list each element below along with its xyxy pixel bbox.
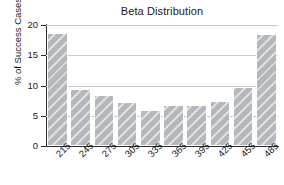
chart-container: Beta Distribution % of Success Cases 051… bbox=[0, 0, 284, 185]
bar bbox=[256, 34, 277, 146]
bar bbox=[70, 89, 91, 146]
y-tick-mark-0 bbox=[41, 146, 46, 147]
y-tick-mark-10 bbox=[41, 86, 46, 87]
bar bbox=[47, 33, 68, 146]
y-tick-label-20: 20 bbox=[12, 20, 38, 30]
bar bbox=[233, 87, 254, 146]
y-tick-label-15: 15 bbox=[12, 50, 38, 60]
plot-area bbox=[46, 25, 278, 146]
bar bbox=[117, 102, 138, 146]
y-tick-label-10: 10 bbox=[12, 81, 38, 91]
y-tick-mark-20 bbox=[41, 25, 46, 26]
bar bbox=[210, 101, 231, 146]
y-tick-mark-5 bbox=[41, 116, 46, 117]
x-axis-tick-labels: 215245275305335365395425455485 bbox=[46, 148, 278, 185]
bar-series bbox=[46, 25, 278, 146]
y-tick-label-0: 0 bbox=[12, 141, 38, 151]
chart-title: Beta Distribution bbox=[46, 5, 278, 17]
y-axis-tick-labels: 05101520 bbox=[8, 0, 38, 185]
y-tick-mark-15 bbox=[41, 55, 46, 56]
bar bbox=[94, 95, 115, 146]
y-tick-label-5: 5 bbox=[12, 111, 38, 121]
